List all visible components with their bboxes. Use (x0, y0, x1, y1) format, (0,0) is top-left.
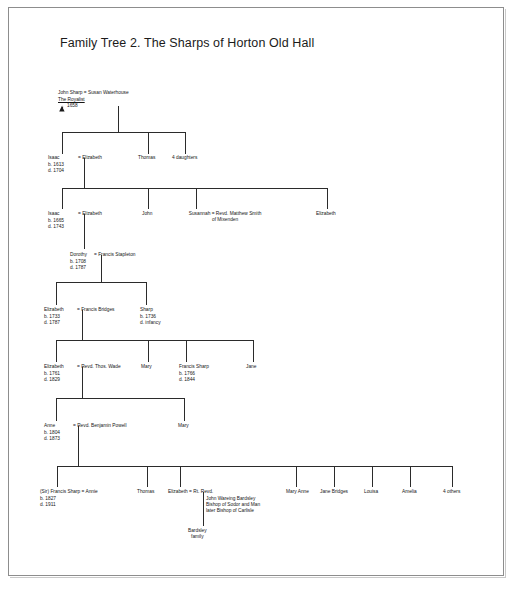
connector-gen3-child-susannah (196, 188, 197, 209)
node-bardsley-family: Bardsley family (188, 528, 207, 541)
node-four-daughters-gen2: 4 daughters (172, 155, 197, 162)
node-francis-sharp-1766-death: d. 1844 (179, 377, 209, 384)
connector-gen5-sibling-bar (56, 282, 146, 283)
node-isaac-1665-spouse: = Elizabeth (78, 211, 102, 218)
node-anne-1804: Anne b. 1804 d. 1873 (44, 423, 60, 443)
node-elizabeth-1761-spouse: = Revd. Thos. Wade (77, 364, 121, 371)
node-jane-bridges-gen8: Jane Bridges (320, 489, 348, 496)
connector-gen7-child-mary (184, 398, 185, 421)
connector-gen3-child-john (148, 188, 149, 209)
node-bardsley-title-1: John Wareing Bardsley (206, 496, 260, 502)
node-elizabeth-1761-name: Elizabeth (44, 364, 64, 371)
node-susannah: Susannah = Revd. Matthew Smith of Mixend… (189, 211, 262, 224)
node-four-others-gen8: 4 others (443, 489, 460, 496)
connector-gen6-child-mary (148, 340, 149, 362)
connector-gen2-child-daughters (185, 132, 186, 154)
connector-gen8-child-elizabeth (180, 466, 181, 487)
node-bardsley-title-3: later Bishop of Carlisle (206, 508, 260, 514)
node-francis-sharp-1766-birth: b. 1766 (179, 371, 209, 378)
node-isaac-1665: Isaac b. 1665 d. 1743 (48, 211, 64, 231)
connector-gen5-child-sharp (146, 282, 147, 305)
connector-gen7-child-anne (56, 398, 57, 421)
node-isaac-1613-name: Isaac (48, 155, 64, 162)
connector-gen6-child-jane (253, 340, 254, 362)
node-john-sharp-name: John Sharp = Susan Waterhouse (58, 90, 129, 97)
node-sharp-1736-death: d. infancy (140, 320, 161, 327)
node-john-sharp-epithet: The Royalist (58, 97, 129, 104)
node-dorothy: Dorothy b. 1708 d. 1787 (70, 252, 87, 272)
connector-gen1-drop (118, 106, 119, 132)
node-sir-francis-sharp: (Sir) Francis Sharp = Annie b. 1827 d. 1… (40, 489, 98, 509)
connector-anne1804-marriage (78, 426, 79, 466)
node-mary-gen7: Mary (178, 423, 189, 430)
node-amelia-gen8: Amelia (402, 489, 417, 496)
node-isaac-1613-death: d. 1704 (48, 168, 64, 175)
node-isaac-1613: Isaac b. 1613 d. 1704 (48, 155, 64, 175)
connector-elizabeth1761-marriage (82, 367, 83, 398)
node-sharp-1736: Sharp b. 1736 d. infancy (140, 307, 161, 327)
node-sir-francis-sharp-death: d. 1911 (40, 502, 98, 509)
node-anne-1804-spouse: = Revd. Benjamin Powell (73, 423, 126, 430)
connector-gen2-sibling-bar (62, 132, 185, 133)
node-sharp-1736-birth: b. 1736 (140, 314, 161, 321)
connector-gen3-child-elizabeth (327, 188, 328, 209)
connector-elizabeth1733-marriage (82, 310, 83, 340)
node-louisa-gen8: Louisa (364, 489, 378, 496)
node-francis-sharp-1766: Francis Sharp b. 1766 d. 1844 (179, 364, 209, 384)
node-mary-gen6: Mary (141, 364, 152, 371)
node-jane-gen6: Jane (246, 364, 256, 371)
node-isaac-1613-birth: b. 1613 (48, 162, 64, 169)
node-sir-francis-sharp-birth: b. 1827 (40, 496, 98, 503)
node-elizabeth-gen3: Elizabeth (316, 211, 336, 218)
node-isaac-1613-spouse: = Elizabeth (78, 155, 102, 162)
connector-gen8-child-mary-anne (296, 466, 297, 487)
node-elizabeth-1733-birth: b. 1733 (44, 314, 64, 321)
connector-gen8-child-four-others (452, 466, 453, 487)
connector-gen6-child-francis (186, 340, 187, 362)
node-bardsley-family-line2: family (188, 534, 207, 540)
connector-gen8-child-louisa (372, 466, 373, 487)
node-john-gen3: John (142, 211, 152, 218)
node-elizabeth-1761: Elizabeth b. 1761 d. 1829 (44, 364, 64, 384)
node-anne-1804-birth: b. 1804 (44, 430, 60, 437)
connector-gen8-child-jane-bridges (334, 466, 335, 487)
node-sir-francis-sharp-name: (Sir) Francis Sharp = Annie (40, 489, 98, 496)
page-title: Family Tree 2. The Sharps of Horton Old … (60, 36, 314, 50)
connector-gen8-child-francis (57, 466, 58, 487)
node-elizabeth-1761-death: d. 1829 (44, 377, 64, 384)
node-elizabeth-1733-name: Elizabeth (44, 307, 64, 314)
connector-gen3-child-isaac (62, 188, 63, 209)
node-susannah-line2: of Mixenden (189, 217, 262, 223)
connector-gen6-sibling-bar (56, 340, 253, 341)
node-isaac-1665-name: Isaac (48, 211, 64, 218)
connector-gen5-child-elizabeth (56, 282, 57, 305)
connector-isaac1665-marriage (84, 214, 85, 249)
node-isaac-1665-death: d. 1743 (48, 224, 64, 231)
connector-dorothy-marriage (101, 255, 102, 282)
connector-gen8-child-amelia (410, 466, 411, 487)
connector-gen2-child-thomas (148, 132, 149, 154)
node-sharp-1736-name: Sharp (140, 307, 161, 314)
connector-gen2-child-isaac (62, 132, 63, 154)
connector-gen3-sibling-bar (62, 188, 327, 189)
node-thomas-gen8: Thomas (137, 489, 154, 496)
node-francis-sharp-1766-name: Francis Sharp (179, 364, 209, 371)
node-dorothy-name: Dorothy (70, 252, 87, 259)
connector-gen8-child-thomas (147, 466, 148, 487)
connector-gen8-sibling-bar (57, 466, 452, 467)
node-dorothy-death: d. 1787 (70, 265, 87, 272)
node-isaac-1665-birth: b. 1665 (48, 218, 64, 225)
family-tree-page: Family Tree 2. The Sharps of Horton Old … (0, 0, 514, 592)
node-elizabeth-1733: Elizabeth b. 1733 d. 1787 (44, 307, 64, 327)
node-bardsley-titles: John Wareing Bardsley Bishop of Sodor an… (206, 496, 260, 515)
node-thomas-gen2: Thomas (138, 155, 155, 162)
node-dorothy-birth: b. 1708 (70, 259, 87, 266)
node-anne-1804-death: d. 1873 (44, 436, 60, 443)
connector-gen2-drop (84, 159, 85, 188)
node-elizabeth-1733-death: d. 1787 (44, 320, 64, 327)
connector-gen6-child-elizabeth (56, 340, 57, 362)
connector-bardsley-marriage (203, 492, 204, 526)
node-mary-anne-gen8: Mary Anne (286, 489, 309, 496)
node-elizabeth-1761-birth: b. 1761 (44, 371, 64, 378)
node-anne-1804-name: Anne (44, 423, 60, 430)
